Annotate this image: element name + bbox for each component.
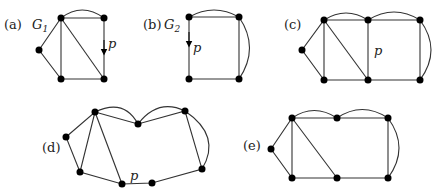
node [365, 77, 372, 84]
path-label-p: p [193, 40, 202, 55]
path-label-p: p [130, 168, 139, 183]
node [417, 77, 424, 84]
node [199, 166, 206, 173]
edge-curved [292, 111, 337, 119]
edge-curved [138, 107, 185, 124]
panel-e-label: (e) [243, 138, 261, 153]
node [385, 175, 392, 182]
node [119, 181, 126, 188]
node [36, 47, 43, 54]
node [63, 134, 70, 141]
edge-curved [324, 13, 368, 20]
panel-b-label: (b) [143, 17, 161, 32]
node [385, 115, 392, 122]
edge-curved [368, 12, 420, 20]
edge [95, 112, 122, 184]
node [186, 14, 193, 21]
node [321, 77, 328, 84]
node [334, 175, 341, 182]
panel-e: (e) [243, 110, 399, 182]
node [289, 175, 296, 182]
node [101, 15, 108, 22]
node [299, 47, 306, 54]
node [236, 76, 243, 83]
node [77, 169, 84, 176]
graph-name-g2: G2 [164, 17, 180, 34]
node [236, 14, 243, 21]
panel-a-label: (a) [4, 17, 22, 32]
edge [61, 18, 104, 79]
node [186, 76, 193, 83]
edge-curved [388, 118, 399, 178]
panel-d-label: (d) [42, 140, 60, 155]
node [268, 146, 275, 153]
node [365, 17, 372, 24]
edge-curved [420, 20, 431, 80]
path-label-p: p [108, 36, 117, 51]
node [182, 108, 189, 115]
node [149, 180, 156, 187]
node [58, 76, 65, 83]
panel-c: (c) p [284, 12, 431, 84]
edge-curved [95, 107, 138, 124]
edge [271, 118, 388, 178]
node [58, 15, 65, 22]
edge-curved [61, 10, 104, 18]
node [101, 76, 108, 83]
edge-curved [337, 110, 388, 119]
panel-b: (b) G2 p [143, 10, 250, 83]
figure-canvas: (a) G1 p (b) G2 p (c) [0, 0, 443, 193]
panel-a: (a) G1 p [4, 10, 117, 83]
graph-name-g1: G1 [32, 17, 48, 34]
node [289, 115, 296, 122]
edge-curved [189, 10, 239, 17]
node [135, 121, 142, 128]
node [321, 17, 328, 24]
path-label-p: p [374, 43, 383, 58]
edge-curved [239, 17, 250, 79]
edge [39, 18, 104, 79]
edge-curved [185, 111, 209, 169]
node [417, 17, 424, 24]
edge [292, 118, 337, 178]
edge [324, 20, 368, 80]
node [92, 109, 99, 116]
node [334, 115, 341, 122]
panel-c-label: (c) [284, 17, 301, 32]
panel-d: (d) p [42, 107, 209, 188]
